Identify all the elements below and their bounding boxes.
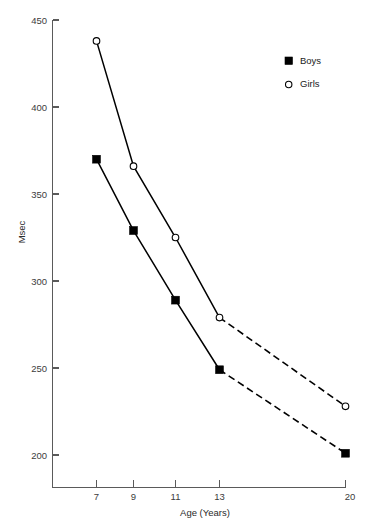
data-point-filled-square <box>130 227 138 235</box>
y-tick-label: 200 <box>31 450 47 461</box>
x-axis-title: Age (Years) <box>180 507 230 518</box>
chart-figure: 450 400 350 300 250 200 Msec <box>0 0 375 525</box>
x-tick-label: 13 <box>214 491 225 502</box>
data-point-open-circle <box>216 314 223 321</box>
y-tick-label: 300 <box>31 276 47 287</box>
x-tick-label: 11 <box>171 491 181 502</box>
data-point-filled-square <box>93 155 101 163</box>
y-tick-label: 350 <box>31 189 47 200</box>
data-point-filled-square <box>216 366 224 374</box>
y-axis-title: Msec <box>16 220 27 243</box>
data-point-filled-square <box>172 296 180 304</box>
y-tick-label: 250 <box>31 363 47 374</box>
x-tick-label: 9 <box>131 491 136 502</box>
legend-label: Boys <box>300 55 321 66</box>
x-tick-label: 7 <box>94 491 99 502</box>
data-point-open-circle <box>342 403 349 410</box>
data-point-open-circle <box>172 234 179 241</box>
x-tick-label: 20 <box>345 491 356 502</box>
legend-label: Girls <box>300 78 320 89</box>
data-point-open-circle <box>130 163 137 170</box>
y-tick-label: 450 <box>31 15 47 26</box>
open-circle-icon <box>286 81 292 87</box>
data-point-filled-square <box>342 449 350 457</box>
filled-square-icon <box>285 57 293 65</box>
y-tick-label: 400 <box>31 102 47 113</box>
data-point-open-circle <box>93 38 100 45</box>
line-chart: 450 400 350 300 250 200 Msec <box>0 0 375 525</box>
